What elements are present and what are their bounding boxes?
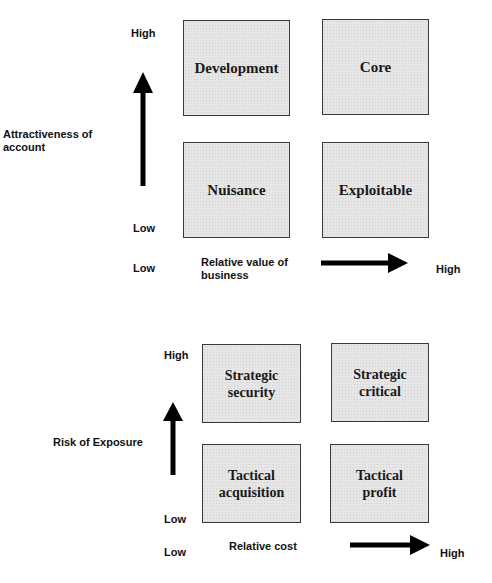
- x-axis-title: Relative value of business: [201, 256, 301, 282]
- x-axis-low-label: Low: [164, 546, 186, 559]
- quadrant-label: Development: [194, 60, 278, 77]
- y-axis-low-label: Low: [133, 222, 155, 235]
- y-axis-title: Attractiveness of account: [3, 128, 113, 154]
- right-arrow-icon: [320, 251, 412, 275]
- y-axis-high-label: High: [131, 27, 155, 40]
- right-arrow-icon: [349, 533, 433, 557]
- quadrant-core: Core: [322, 19, 429, 115]
- quadrant-label: Strategic security: [225, 367, 279, 401]
- quadrant-tactical-acquisition: Tactical acquisition: [202, 444, 301, 523]
- quadrant-label: Tactical profit: [356, 467, 403, 501]
- quadrant-exploitable: Exploitable: [322, 142, 429, 238]
- quadrant-label: Tactical acquisition: [219, 467, 284, 501]
- quadrant-label: Core: [360, 59, 391, 76]
- x-axis-low-label: Low: [133, 262, 155, 275]
- x-axis-high-label: High: [436, 263, 460, 276]
- quadrant-nuisance: Nuisance: [183, 142, 290, 238]
- quadrant-label: Exploitable: [339, 182, 412, 199]
- x-axis-title: Relative cost: [229, 540, 297, 553]
- up-arrow-icon: [130, 68, 156, 188]
- quadrant-label: Nuisance: [207, 182, 265, 199]
- up-arrow-icon: [160, 399, 186, 479]
- y-axis-low-label: Low: [164, 513, 186, 526]
- quadrant-tactical-profit: Tactical profit: [330, 444, 429, 523]
- quadrant-label: Strategic critical: [353, 366, 407, 400]
- quadrant-strategic-security: Strategic security: [202, 344, 301, 423]
- quadrant-strategic-critical: Strategic critical: [331, 343, 429, 422]
- y-axis-high-label: High: [164, 349, 188, 362]
- x-axis-high-label: High: [440, 547, 464, 560]
- y-axis-title: Risk of Exposure: [53, 436, 143, 449]
- quadrant-development: Development: [183, 20, 290, 116]
